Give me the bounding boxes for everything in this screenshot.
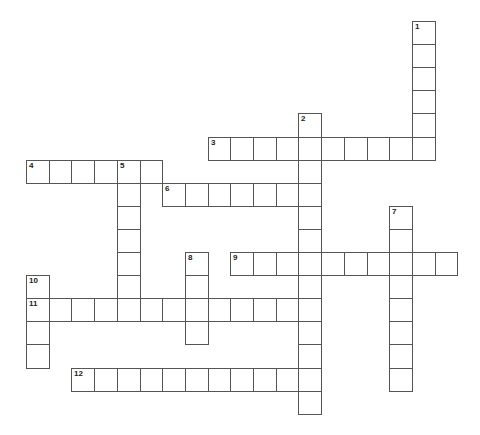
- crossword-cell-input[interactable]: [277, 299, 298, 321]
- crossword-cell-input[interactable]: [50, 299, 71, 321]
- crossword-cell[interactable]: [389, 252, 413, 276]
- crossword-cell-input[interactable]: [299, 114, 321, 137]
- crossword-cell-input[interactable]: [299, 392, 321, 414]
- crossword-cell[interactable]: [140, 298, 163, 322]
- crossword-cell[interactable]: [298, 206, 322, 230]
- crossword-cell-input[interactable]: [254, 299, 276, 321]
- crossword-cell[interactable]: [117, 252, 141, 276]
- crossword-cell-input[interactable]: [390, 138, 412, 160]
- crossword-cell-input[interactable]: [231, 184, 253, 206]
- crossword-cell-input[interactable]: [209, 138, 230, 160]
- crossword-cell-input[interactable]: [390, 369, 412, 391]
- crossword-cell-input[interactable]: [299, 207, 321, 229]
- crossword-cell[interactable]: [298, 321, 322, 345]
- crossword-cell-input[interactable]: [436, 253, 457, 275]
- crossword-cell-input[interactable]: [390, 253, 412, 275]
- crossword-cell-input[interactable]: [390, 345, 412, 368]
- crossword-cell-input[interactable]: [277, 138, 298, 160]
- crossword-cell-input[interactable]: [118, 253, 140, 275]
- crossword-cell-input[interactable]: [413, 253, 435, 275]
- crossword-cell-input[interactable]: [299, 276, 321, 298]
- crossword-cell[interactable]: [298, 275, 322, 299]
- crossword-cell[interactable]: [26, 344, 50, 369]
- crossword-cell[interactable]: [389, 368, 413, 392]
- crossword-cell-input[interactable]: [299, 322, 321, 344]
- crossword-cell[interactable]: [412, 67, 436, 91]
- crossword-cell-input[interactable]: [95, 161, 117, 183]
- crossword-cell-input[interactable]: [141, 369, 162, 391]
- crossword-cell[interactable]: [185, 368, 209, 392]
- crossword-cell[interactable]: [298, 298, 322, 322]
- crossword-cell[interactable]: [71, 298, 95, 322]
- crossword-cell-input[interactable]: [345, 138, 367, 160]
- crossword-cell-input[interactable]: [231, 138, 253, 160]
- crossword-cell[interactable]: [140, 368, 163, 392]
- crossword-cell-input[interactable]: [254, 184, 276, 206]
- crossword-cell[interactable]: [230, 368, 254, 392]
- crossword-cell-input[interactable]: [413, 138, 435, 160]
- crossword-cell[interactable]: [321, 252, 345, 276]
- crossword-cell[interactable]: [117, 298, 141, 322]
- crossword-cell-input[interactable]: [118, 276, 140, 298]
- crossword-cell[interactable]: [298, 252, 322, 276]
- crossword-cell[interactable]: [94, 298, 118, 322]
- crossword-cell[interactable]: [367, 252, 390, 276]
- crossword-cell[interactable]: [26, 321, 50, 345]
- crossword-cell[interactable]: [298, 391, 322, 415]
- crossword-cell-input[interactable]: [209, 369, 230, 391]
- crossword-cell[interactable]: [230, 183, 254, 207]
- crossword-cell-input[interactable]: [368, 253, 389, 275]
- crossword-cell[interactable]: [412, 252, 436, 276]
- crossword-cell[interactable]: 12: [71, 368, 95, 392]
- crossword-cell[interactable]: [117, 275, 141, 299]
- crossword-cell[interactable]: 1: [412, 21, 436, 45]
- crossword-cell-input[interactable]: [345, 253, 367, 275]
- crossword-cell[interactable]: [321, 137, 345, 161]
- crossword-cell-input[interactable]: [254, 253, 276, 275]
- crossword-cell-input[interactable]: [118, 369, 140, 391]
- crossword-cell[interactable]: [276, 298, 299, 322]
- crossword-cell-input[interactable]: [186, 369, 208, 391]
- crossword-cell-input[interactable]: [390, 299, 412, 321]
- crossword-cell[interactable]: [412, 137, 436, 161]
- crossword-cell-input[interactable]: [231, 299, 253, 321]
- crossword-cell-input[interactable]: [72, 161, 94, 183]
- crossword-cell[interactable]: [344, 137, 368, 161]
- crossword-cell[interactable]: [162, 368, 186, 392]
- crossword-cell[interactable]: [298, 137, 322, 161]
- crossword-cell[interactable]: [389, 321, 413, 345]
- crossword-cell[interactable]: 6: [162, 183, 186, 207]
- crossword-cell[interactable]: [389, 344, 413, 369]
- crossword-cell-input[interactable]: [390, 230, 412, 252]
- crossword-cell[interactable]: [298, 344, 322, 369]
- crossword-cell-input[interactable]: [299, 299, 321, 321]
- crossword-cell-input[interactable]: [118, 299, 140, 321]
- crossword-cell[interactable]: [389, 229, 413, 253]
- crossword-cell-input[interactable]: [390, 207, 412, 229]
- crossword-cell[interactable]: [117, 206, 141, 230]
- crossword-cell-input[interactable]: [299, 230, 321, 252]
- crossword-cell[interactable]: [276, 252, 299, 276]
- crossword-cell-input[interactable]: [95, 299, 117, 321]
- crossword-cell-input[interactable]: [390, 322, 412, 344]
- crossword-cell[interactable]: 5: [117, 160, 141, 184]
- crossword-cell[interactable]: [230, 137, 254, 161]
- crossword-cell[interactable]: [185, 183, 209, 207]
- crossword-cell[interactable]: [117, 368, 141, 392]
- crossword-cell-input[interactable]: [186, 299, 208, 321]
- crossword-cell-input[interactable]: [231, 369, 253, 391]
- crossword-cell[interactable]: [412, 44, 436, 68]
- crossword-cell-input[interactable]: [299, 345, 321, 368]
- crossword-cell[interactable]: [276, 183, 299, 207]
- crossword-cell-input[interactable]: [186, 322, 208, 344]
- crossword-cell[interactable]: [253, 137, 277, 161]
- crossword-cell-input[interactable]: [50, 161, 71, 183]
- crossword-cell-input[interactable]: [413, 91, 435, 113]
- crossword-cell[interactable]: [435, 252, 458, 276]
- crossword-cell-input[interactable]: [413, 68, 435, 90]
- crossword-cell[interactable]: [71, 160, 95, 184]
- crossword-cell[interactable]: [49, 298, 72, 322]
- crossword-cell-input[interactable]: [141, 161, 162, 183]
- crossword-cell[interactable]: [185, 321, 209, 345]
- crossword-cell-input[interactable]: [27, 299, 49, 321]
